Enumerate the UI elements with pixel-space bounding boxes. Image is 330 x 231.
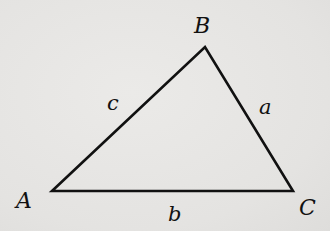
side-label-a: a <box>259 95 272 119</box>
triangle-abc <box>52 47 293 191</box>
diagram-canvas: B A C c a b <box>0 0 330 231</box>
triangle-diagram: B A C c a b <box>0 0 330 231</box>
side-label-b: b <box>168 202 181 226</box>
vertex-label-b: B <box>193 13 210 38</box>
vertex-label-a: A <box>14 188 32 213</box>
vertex-label-c: C <box>299 195 316 220</box>
side-label-c: c <box>107 91 119 115</box>
